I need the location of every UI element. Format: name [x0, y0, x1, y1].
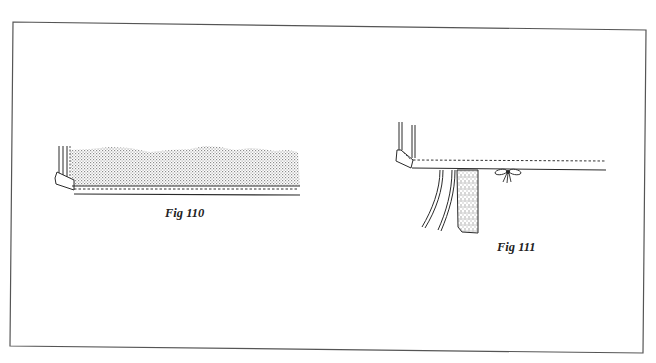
- figure-110-drawing: [55, 146, 300, 195]
- figure-111-caption: Fig 111: [497, 240, 536, 255]
- figure-111-drawing: [396, 122, 606, 233]
- tie-bow: [495, 168, 522, 183]
- illustration-canvas: [0, 0, 656, 363]
- hanging-string: [422, 170, 440, 227]
- figure-110-caption: Fig 110: [165, 206, 204, 221]
- fabric-stipple: [70, 146, 300, 186]
- hanging-tape: [457, 170, 478, 233]
- figure-frame: [10, 22, 646, 353]
